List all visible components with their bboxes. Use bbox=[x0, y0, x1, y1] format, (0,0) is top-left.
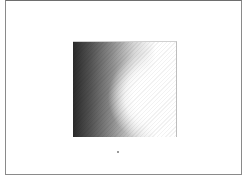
marker-dot bbox=[117, 151, 119, 153]
gradient-image bbox=[73, 41, 177, 137]
